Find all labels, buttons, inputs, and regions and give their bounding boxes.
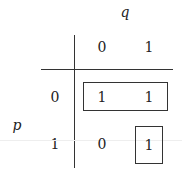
column-header-1: 1 — [145, 40, 154, 54]
cell-0-0: 1 — [98, 90, 107, 104]
row-header-0: 0 — [51, 90, 60, 104]
horizontal-divider — [41, 69, 173, 70]
cell-0-1: 1 — [145, 90, 154, 104]
column-header-0: 0 — [98, 40, 107, 54]
vertical-divider — [74, 35, 75, 168]
cell-1-1: 1 — [145, 138, 154, 152]
row-variable-label: p — [13, 118, 22, 132]
group-box-row-0 — [83, 82, 168, 111]
cell-1-0: 0 — [98, 137, 107, 151]
column-variable-label: q — [121, 5, 130, 19]
